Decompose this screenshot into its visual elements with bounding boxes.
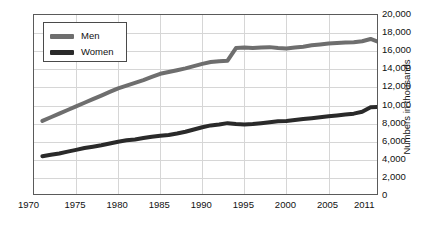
x-tick-label-1990: 1990	[191, 199, 212, 210]
y-axis-title-text: Numbers in thousands	[401, 32, 412, 182]
legend-swatch-women	[50, 50, 74, 55]
x-tick-label-1985: 1985	[149, 199, 170, 210]
legend-label-men: Men	[81, 31, 99, 41]
x-axis-tick-labels: 197019751980198519901995200020052011	[0, 199, 448, 217]
series-line-women	[42, 107, 378, 156]
x-tick-label-1995: 1995	[233, 199, 254, 210]
legend-label-women: Women	[81, 47, 114, 57]
x-tick-label-2011: 2011	[354, 199, 374, 210]
legend-item-men: Men	[50, 28, 120, 44]
x-tick-label-1980: 1980	[107, 199, 128, 210]
x-tick-label-2005: 2005	[317, 199, 338, 210]
legend-item-women: Women	[50, 44, 120, 60]
y-axis-title: Numbers in thousands	[401, 0, 415, 32]
legend: Men Women	[43, 22, 127, 62]
x-tick-label-1970: 1970	[18, 199, 39, 210]
x-tick-label-2000: 2000	[275, 199, 296, 210]
line-chart: Men Women 02,0004,0006,0008,00010,00012,…	[0, 0, 448, 235]
legend-swatch-men	[50, 34, 74, 39]
x-tick-label-1975: 1975	[64, 199, 85, 210]
